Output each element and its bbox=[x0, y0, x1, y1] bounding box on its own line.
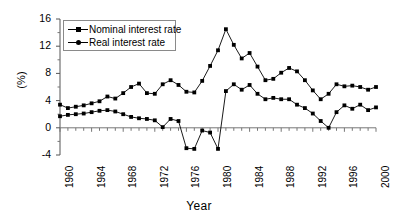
data-point bbox=[327, 92, 331, 96]
data-point bbox=[311, 112, 315, 116]
data-point bbox=[208, 131, 212, 135]
data-point bbox=[279, 71, 283, 75]
data-point bbox=[169, 78, 173, 82]
chart-container: (%) Year Nominal interest rate Real inte… bbox=[0, 0, 398, 222]
data-point bbox=[287, 66, 291, 70]
y-axis-tick-label: 0 bbox=[25, 121, 51, 133]
data-point bbox=[335, 110, 339, 114]
data-point bbox=[129, 85, 133, 89]
y-axis-tick-label: 4 bbox=[25, 94, 51, 106]
data-point bbox=[256, 92, 260, 96]
data-point bbox=[224, 89, 228, 93]
data-point bbox=[161, 125, 165, 129]
data-point bbox=[358, 85, 362, 89]
data-point bbox=[185, 146, 189, 150]
data-point bbox=[240, 57, 244, 61]
data-point bbox=[374, 106, 378, 110]
x-axis-tick-label: 1968 bbox=[127, 166, 138, 188]
data-point bbox=[98, 109, 102, 113]
x-axis-tick-label: 2000 bbox=[380, 166, 391, 188]
x-axis-tick-label: 1980 bbox=[222, 166, 233, 188]
y-axis-tick-label: 8 bbox=[25, 66, 51, 78]
y-axis-tick-label: 16 bbox=[25, 12, 51, 24]
data-point bbox=[161, 82, 165, 86]
legend-item-nominal: Nominal interest rate bbox=[67, 23, 172, 36]
data-point bbox=[137, 82, 141, 86]
data-point bbox=[350, 107, 354, 111]
x-axis-title-label: Year bbox=[186, 199, 211, 213]
data-point bbox=[271, 77, 275, 81]
data-point bbox=[343, 103, 347, 107]
data-point bbox=[343, 84, 347, 88]
x-axis-tick-label: 1972 bbox=[159, 166, 170, 188]
legend-marker-icon-real bbox=[67, 37, 89, 49]
data-point bbox=[366, 88, 370, 92]
data-point bbox=[137, 116, 141, 120]
data-point bbox=[66, 113, 70, 117]
data-point bbox=[327, 126, 331, 130]
data-point bbox=[358, 103, 362, 107]
data-point bbox=[113, 110, 117, 114]
data-point bbox=[66, 106, 70, 110]
legend-marker-icon-nominal bbox=[67, 24, 89, 36]
data-point bbox=[153, 118, 157, 122]
chart-plot-area bbox=[0, 0, 398, 222]
data-point bbox=[335, 82, 339, 86]
data-point bbox=[264, 97, 268, 101]
data-point bbox=[98, 99, 102, 103]
y-axis-tick-label: -4 bbox=[25, 148, 51, 160]
data-point bbox=[303, 106, 307, 110]
data-point bbox=[271, 96, 275, 100]
data-point bbox=[58, 103, 62, 107]
data-point bbox=[264, 78, 268, 82]
data-point bbox=[145, 117, 149, 121]
data-point bbox=[350, 84, 354, 88]
data-point bbox=[192, 147, 196, 151]
data-point bbox=[295, 69, 299, 73]
x-axis-tick-label: 1988 bbox=[285, 166, 296, 188]
data-point bbox=[74, 112, 78, 116]
y-axis-tick-label: 12 bbox=[25, 39, 51, 51]
data-point bbox=[106, 95, 110, 99]
data-point bbox=[58, 114, 62, 118]
data-point bbox=[287, 97, 291, 101]
x-axis-tick-label: 1984 bbox=[254, 166, 265, 188]
data-point bbox=[169, 117, 173, 121]
data-point bbox=[177, 83, 181, 87]
data-point bbox=[256, 65, 260, 69]
data-point bbox=[374, 85, 378, 89]
legend-item-real: Real interest rate bbox=[67, 36, 172, 49]
data-point bbox=[303, 78, 307, 82]
data-point bbox=[74, 105, 78, 109]
data-point bbox=[129, 115, 133, 119]
data-point bbox=[319, 119, 323, 123]
data-point bbox=[319, 97, 323, 101]
data-point bbox=[279, 97, 283, 101]
data-point bbox=[121, 112, 125, 116]
data-point bbox=[208, 64, 212, 68]
x-axis-tick-label: 1960 bbox=[64, 166, 75, 188]
x-axis-tick-label: 1976 bbox=[190, 166, 201, 188]
legend-label-nominal: Nominal interest rate bbox=[89, 24, 181, 36]
data-point bbox=[113, 97, 117, 101]
data-point bbox=[232, 43, 236, 47]
data-point bbox=[192, 91, 196, 95]
data-point bbox=[248, 51, 252, 55]
data-point bbox=[224, 27, 228, 31]
x-axis-title: Year bbox=[0, 196, 398, 214]
data-point bbox=[200, 79, 204, 83]
chart-legend: Nominal interest rate Real interest rate bbox=[63, 20, 176, 51]
data-point bbox=[177, 119, 181, 123]
data-point bbox=[185, 90, 189, 94]
data-point bbox=[200, 129, 204, 133]
data-point bbox=[82, 103, 86, 107]
data-point bbox=[295, 103, 299, 107]
data-point bbox=[82, 112, 86, 116]
legend-label-real: Real interest rate bbox=[89, 37, 165, 49]
data-point bbox=[216, 147, 220, 151]
data-point bbox=[145, 91, 149, 95]
data-point bbox=[153, 92, 157, 96]
data-point bbox=[240, 88, 244, 92]
data-point bbox=[248, 83, 252, 87]
data-point bbox=[106, 108, 110, 112]
